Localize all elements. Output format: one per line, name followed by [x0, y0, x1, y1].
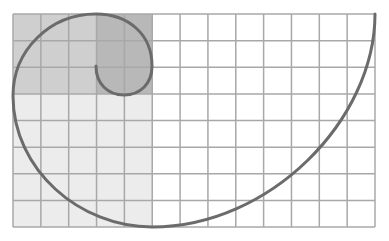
large-light-region: [13, 94, 152, 227]
golden-spiral-diagram: [0, 0, 389, 241]
